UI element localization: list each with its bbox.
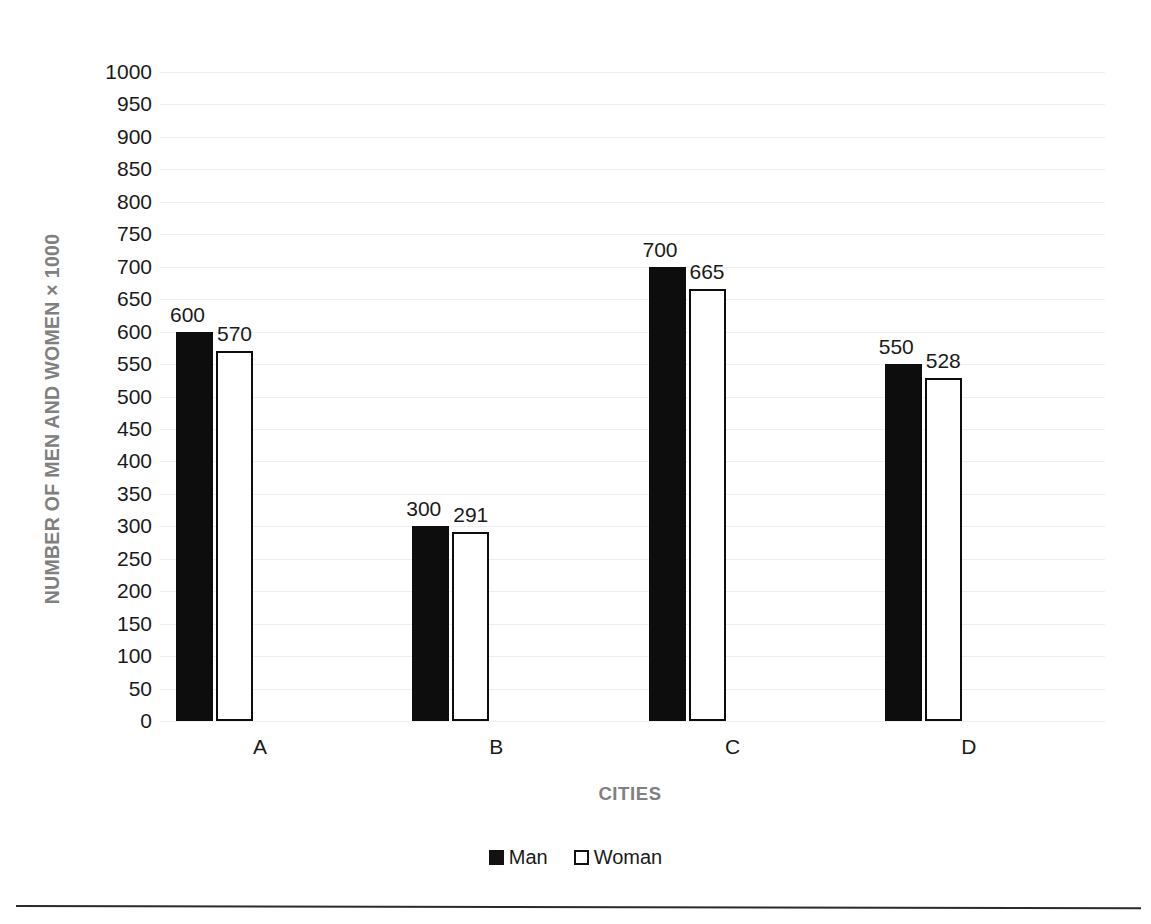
y-axis-tick-label: 800 (92, 190, 152, 214)
chart-legend: ManWoman (0, 846, 1151, 869)
bar-value-label-man: 600 (170, 304, 205, 325)
bar-value-label-woman: 528 (926, 350, 961, 371)
y-axis-tick-label: 450 (92, 417, 152, 441)
x-axis-category-labels: ABCD (160, 735, 1105, 769)
bottom-divider (16, 905, 1141, 909)
outlined-square-icon (574, 850, 589, 865)
y-axis-tick-label: 0 (92, 709, 152, 733)
bar-value-label-man: 550 (879, 336, 914, 357)
bar-man[interactable] (412, 526, 449, 721)
x-axis-title: CITIES (155, 783, 1105, 805)
bar-chart: NUMBER OF MEN AND WOMEN × 1000 100095090… (0, 0, 1151, 924)
bar-man[interactable] (649, 267, 686, 721)
bar-woman[interactable] (216, 351, 253, 721)
y-axis-tick-label: 650 (92, 287, 152, 311)
y-axis-tick-labels: 1000950900850800750700650600550500450400… (88, 72, 152, 721)
legend-item[interactable]: Woman (574, 846, 663, 869)
y-axis-tick-label: 1000 (92, 60, 152, 84)
y-axis-tick-label: 900 (92, 125, 152, 149)
bar-group: 300291 (396, 72, 632, 721)
y-axis-tick-label: 150 (92, 612, 152, 636)
y-axis-tick-label: 600 (92, 320, 152, 344)
y-axis-tick-label: 950 (92, 92, 152, 116)
bar-value-label-man: 700 (643, 239, 678, 260)
bar-value-label-woman: 665 (690, 261, 725, 282)
y-axis-tick-label: 100 (92, 644, 152, 668)
gridline (160, 721, 1105, 722)
y-axis-title: NUMBER OF MEN AND WOMEN × 1000 (35, 109, 69, 729)
bar-value-label-woman: 291 (453, 504, 488, 525)
x-axis-category-label: D (914, 735, 1024, 759)
bar-group: 600570 (160, 72, 396, 721)
bar-value-label-man: 300 (406, 498, 441, 519)
x-axis-category-label: B (441, 735, 551, 759)
y-axis-tick-label: 700 (92, 255, 152, 279)
y-axis-tick-label: 350 (92, 482, 152, 506)
plot-area: 600570300291700665550528 (160, 72, 1105, 721)
y-axis-tick-label: 500 (92, 385, 152, 409)
legend-label: Man (509, 846, 548, 869)
bar-group: 550528 (869, 72, 1105, 721)
y-axis-tick-label: 200 (92, 579, 152, 603)
y-axis-tick-label: 50 (92, 677, 152, 701)
bar-group: 700665 (633, 72, 869, 721)
y-axis-tick-label: 550 (92, 352, 152, 376)
bar-woman[interactable] (689, 289, 726, 721)
y-axis-tick-label: 250 (92, 547, 152, 571)
bar-man[interactable] (885, 364, 922, 721)
legend-label: Woman (594, 846, 663, 869)
bar-woman[interactable] (452, 532, 489, 721)
y-axis-tick-label: 400 (92, 449, 152, 473)
y-axis-tick-label: 300 (92, 514, 152, 538)
y-axis-tick-label: 750 (92, 222, 152, 246)
x-axis-category-label: C (678, 735, 788, 759)
legend-item[interactable]: Man (489, 846, 548, 869)
filled-square-icon (489, 850, 504, 865)
bar-man[interactable] (176, 332, 213, 721)
bar-value-label-woman: 570 (217, 323, 252, 344)
y-axis-tick-label: 850 (92, 157, 152, 181)
x-axis-category-label: A (205, 735, 315, 759)
bar-woman[interactable] (925, 378, 962, 721)
